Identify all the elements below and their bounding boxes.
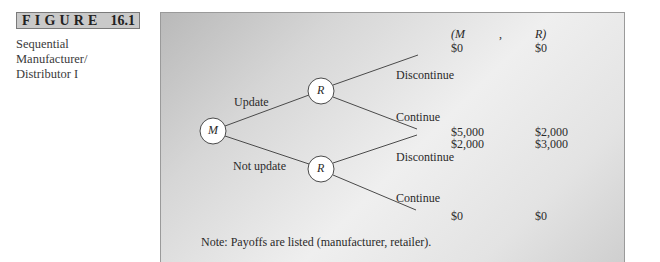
payoff-m: $0	[451, 209, 463, 224]
payoff-r: $3,000	[535, 137, 568, 152]
figure-number: 16.1	[111, 13, 136, 29]
payoff-r: $0	[535, 209, 547, 224]
node-label-r-upper: R	[317, 83, 324, 98]
figure-label-word: FIGURE	[22, 13, 102, 29]
payoff-m: $0	[451, 41, 463, 56]
figure-label: FIGURE 16.1	[16, 12, 140, 29]
payoff-header-r: R)	[535, 27, 546, 42]
caption-line: Sequential	[16, 37, 146, 52]
branch-label-not-update: Not update	[233, 159, 286, 174]
payoff-note: Note: Payoffs are listed (manufacturer, …	[201, 235, 431, 250]
figure-caption: Sequential Manufacturer/ Distributor I	[16, 37, 146, 82]
payoff-r: $0	[535, 41, 547, 56]
node-label-m: M	[208, 123, 218, 138]
payoff-m: $2,000	[451, 137, 484, 152]
game-tree-panel: M R R Update Not update Discontinue Cont…	[160, 12, 625, 262]
branch-label-upper-continue: Continue	[396, 110, 440, 125]
branch-label-upper-discontinue: Discontinue	[396, 68, 454, 83]
payoff-header-comma: ,	[499, 27, 502, 42]
branch-label-update: Update	[234, 95, 269, 110]
payoff-header-m: (M	[451, 27, 465, 42]
branch-label-lower-discontinue: Discontinue	[396, 150, 454, 165]
caption-line: Distributor I	[16, 67, 146, 82]
node-label-r-lower: R	[317, 161, 324, 176]
caption-line: Manufacturer/	[16, 52, 146, 67]
branch-label-lower-continue: Continue	[396, 191, 440, 206]
